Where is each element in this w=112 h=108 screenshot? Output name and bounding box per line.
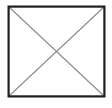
figure-canvas (0, 0, 112, 108)
square-with-diagonals-figure (0, 0, 112, 108)
